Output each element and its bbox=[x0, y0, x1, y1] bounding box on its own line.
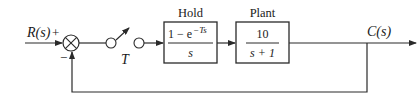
sampler-switch bbox=[106, 28, 144, 48]
summing-junction bbox=[63, 35, 79, 51]
output-label: C(s) bbox=[367, 24, 391, 40]
plant-block: Plant 10 s + 1 bbox=[236, 6, 289, 63]
sampler-contact-right bbox=[134, 38, 144, 48]
feedback-minus-sign: − bbox=[60, 50, 67, 65]
hold-title: Hold bbox=[178, 6, 204, 20]
sampler-arm-arrow bbox=[116, 28, 129, 40]
input-plus-sign: + bbox=[52, 25, 59, 40]
feedback-path bbox=[72, 43, 367, 92]
hold-block: Hold 1 − e−Ts s bbox=[164, 6, 217, 63]
hold-denominator: s bbox=[188, 46, 193, 60]
plant-denominator: s + 1 bbox=[250, 46, 275, 60]
sampler-contact-left bbox=[106, 38, 116, 48]
block-diagram: R(s) + − T Hold 1 − e−Ts s Plant 10 s + … bbox=[0, 0, 417, 99]
plant-numerator: 10 bbox=[257, 27, 269, 41]
sampling-period-label: T bbox=[121, 52, 130, 67]
input-label: R(s) bbox=[26, 25, 51, 41]
plant-title: Plant bbox=[250, 6, 276, 20]
